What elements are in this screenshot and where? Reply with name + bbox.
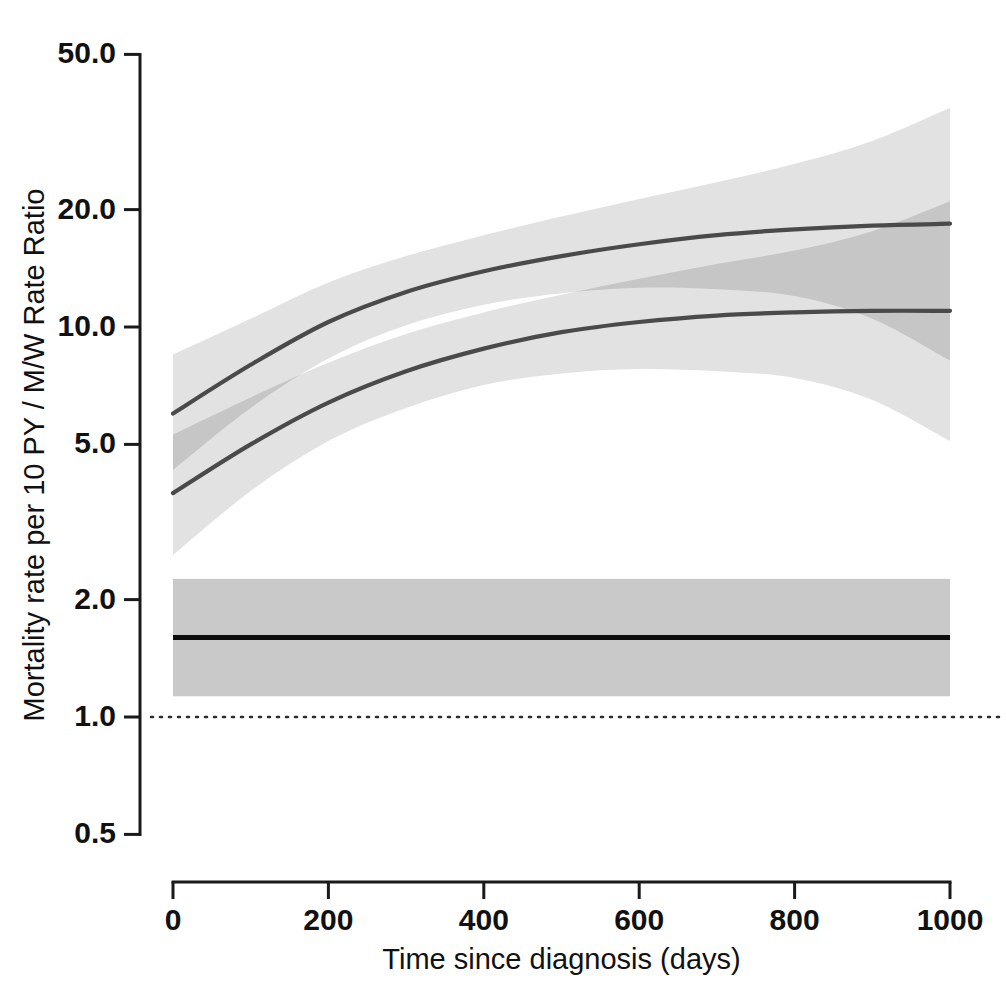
x-axis-tick-label: 1000: [917, 903, 984, 936]
chart-canvas: 0.51.02.05.010.020.050.00200400600800100…: [0, 0, 1006, 1001]
y-axis-tick-label: 20.0: [58, 192, 116, 225]
x-axis-tick-label: 600: [614, 903, 664, 936]
chart-figure: 0.51.02.05.010.020.050.00200400600800100…: [0, 0, 1006, 1001]
y-axis-tick-label: 50.0: [58, 36, 116, 69]
x-axis-tick-label: 200: [303, 903, 353, 936]
x-axis-tick-label: 800: [770, 903, 820, 936]
y-axis-title: Mortality rate per 10 PY / M/W Rate Rati…: [18, 189, 50, 722]
y-axis-tick-label: 1.0: [74, 699, 116, 732]
y-axis-tick-label: 5.0: [74, 426, 116, 459]
x-axis-tick-label: 400: [459, 903, 509, 936]
y-axis-tick-label: 10.0: [58, 309, 116, 342]
y-axis-tick-label: 2.0: [74, 582, 116, 615]
y-axis-tick-label: 0.5: [74, 816, 116, 849]
x-axis-title: Time since diagnosis (days): [382, 943, 740, 975]
x-axis-tick-label: 0: [165, 903, 182, 936]
